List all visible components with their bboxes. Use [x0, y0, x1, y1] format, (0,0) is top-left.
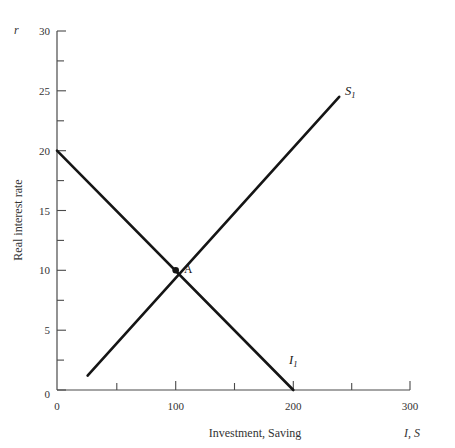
- saving-curve-label-subscript: 1: [351, 90, 355, 100]
- x-tick-label-0: 0: [54, 400, 60, 412]
- x-tick-label-200: 200: [285, 400, 302, 412]
- saving-curve-label: S1: [345, 84, 356, 100]
- y-tick-label-25: 25: [39, 85, 51, 97]
- y-tick-label-10: 10: [39, 264, 51, 276]
- x-tick-label-300: 300: [402, 400, 419, 412]
- y-tick-label-0: 0: [45, 388, 51, 400]
- investment-saving-chart: r Real interest rate 0 5: [0, 0, 455, 448]
- y-axis-major-ticks: [57, 31, 66, 390]
- equilibrium-point-marker: [172, 267, 179, 274]
- x-tick-label-100: 100: [167, 400, 184, 412]
- y-tick-label-15: 15: [39, 205, 51, 217]
- y-axis-title: Real interest rate: [11, 179, 25, 260]
- equilibrium-point-label: A: [184, 263, 193, 275]
- x-axis-tick-labels: 0 100 200 300: [54, 400, 419, 412]
- y-axis-tick-labels: 0 5 10 15 20 25 30: [39, 25, 51, 400]
- saving-supply-curve: [88, 97, 340, 376]
- investment-curve-label-subscript: 1: [293, 359, 297, 369]
- investment-curve-label: I1: [288, 353, 297, 369]
- x-axis-title: Investment, Saving: [209, 426, 302, 440]
- x-axis-symbol: I, S: [403, 426, 420, 440]
- y-tick-label-30: 30: [39, 25, 51, 37]
- x-axis-minor-ticks: [117, 383, 352, 390]
- y-axis-symbol: r: [14, 23, 19, 37]
- y-tick-label-5: 5: [45, 324, 51, 336]
- chart-svg: r Real interest rate 0 5: [0, 0, 455, 448]
- y-tick-label-20: 20: [39, 145, 51, 157]
